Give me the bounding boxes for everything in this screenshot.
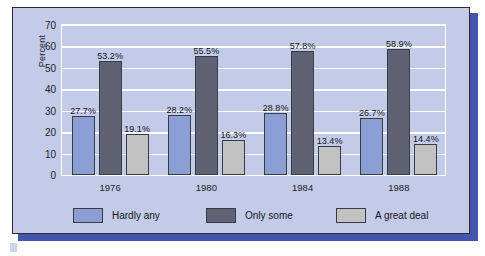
figure-root: Percent 010203040506070 27.7%53.2%19.1%1… — [0, 0, 485, 256]
y-axis-tick-label: 0 — [50, 170, 56, 181]
bar-group: 28.2%55.5%16.3%1980 — [158, 25, 254, 175]
gridline — [62, 175, 445, 176]
bar-value-label: 13.4% — [317, 136, 343, 146]
chart-panel: Percent 010203040506070 27.7%53.2%19.1%1… — [12, 7, 470, 234]
y-axis-tick-label: 30 — [45, 105, 56, 116]
x-axis-tick-label: 1980 — [196, 182, 217, 193]
bar-value-label: 28.2% — [167, 105, 193, 115]
bar-value-label: 14.4% — [413, 134, 439, 144]
bar-value-label: 55.5% — [194, 46, 220, 56]
bar-value-label: 53.2% — [97, 51, 123, 61]
legend-swatch — [336, 208, 366, 223]
chart-legend: Hardly anyOnly someA great deal — [61, 204, 446, 226]
bar-value-label: 19.1% — [124, 124, 150, 134]
bar[interactable]: 57.8% — [291, 51, 314, 175]
legend-label: Only some — [245, 210, 293, 221]
bar[interactable]: 19.1% — [126, 134, 149, 175]
y-axis-tick-label: 70 — [45, 20, 56, 31]
y-axis-tick-label: 40 — [45, 84, 56, 95]
bar-value-label: 58.9% — [386, 39, 412, 49]
bar[interactable]: 16.3% — [222, 140, 245, 175]
y-axis-tick-label: 10 — [45, 148, 56, 159]
bar-value-label: 16.3% — [221, 130, 247, 140]
bar-value-label: 27.7% — [70, 106, 96, 116]
plot-area: 010203040506070 27.7%53.2%19.1%197628.2%… — [61, 24, 446, 176]
bar-group: 28.8%57.8%13.4%1984 — [255, 25, 351, 175]
legend-label: Hardly any — [112, 210, 160, 221]
y-axis-tick-label: 20 — [45, 127, 56, 138]
bar[interactable]: 53.2% — [99, 61, 122, 175]
x-axis-tick-label: 1988 — [388, 182, 409, 193]
x-axis-tick-label: 1976 — [100, 182, 121, 193]
bar[interactable]: 13.4% — [318, 146, 341, 175]
bar-value-label: 26.7% — [359, 108, 385, 118]
legend-item[interactable]: A great deal — [336, 208, 428, 223]
legend-item[interactable]: Hardly any — [73, 208, 160, 223]
legend-item[interactable]: Only some — [206, 208, 293, 223]
bar[interactable]: 55.5% — [195, 56, 218, 175]
bar[interactable]: 27.7% — [72, 116, 95, 175]
bar-value-label: 28.8% — [263, 103, 289, 113]
bar[interactable]: 28.8% — [264, 113, 287, 175]
bar-group: 26.7%58.9%14.4%1988 — [351, 25, 447, 175]
corner-mark — [10, 243, 17, 252]
chart-area: Percent 010203040506070 27.7%53.2%19.1%1… — [13, 8, 469, 233]
bar-groups: 27.7%53.2%19.1%197628.2%55.5%16.3%198028… — [62, 25, 445, 175]
bar[interactable]: 14.4% — [414, 144, 437, 175]
legend-swatch — [73, 208, 103, 223]
bar-group: 27.7%53.2%19.1%1976 — [62, 25, 158, 175]
bar[interactable]: 28.2% — [168, 115, 191, 175]
legend-swatch — [206, 208, 236, 223]
legend-label: A great deal — [375, 210, 428, 221]
y-axis-tick-label: 60 — [45, 41, 56, 52]
y-axis-tick-label: 50 — [45, 62, 56, 73]
bar[interactable]: 58.9% — [387, 49, 410, 175]
bar[interactable]: 26.7% — [360, 118, 383, 175]
x-axis-tick-label: 1984 — [292, 182, 313, 193]
bar-value-label: 57.8% — [290, 41, 316, 51]
